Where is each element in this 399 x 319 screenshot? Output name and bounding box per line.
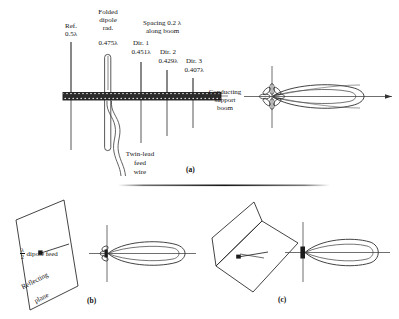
label-dir2-name: Dir. 2 [152,48,184,56]
dipole-feed-point-c [236,255,241,259]
label-dir1-name: Dir. 1 [125,39,157,47]
label-reflector-length: 0.5λ [57,30,85,38]
pattern-feed-marker-b [105,250,108,258]
label-boom-line3: boom [194,104,256,112]
label-reflector-name: Ref. [57,22,85,30]
label-boom-line1: Conducting [194,88,256,96]
label-boom-line2: support [194,96,256,104]
fraction-denominator: 2 [20,253,25,260]
label-spacing-line2: along boom [146,27,179,35]
label-feed-line3: wire [118,168,162,176]
label-folded-dipole-line3: rad. [88,24,128,32]
label-dir3-name: Dir. 3 [178,57,210,65]
dipole-feed-c [236,252,268,259]
figure-canvas [0,0,399,319]
panel-c-id: (c) [278,295,286,304]
label-dir3-length: 0.407λ [176,66,212,74]
panel-a-id: (a) [186,165,195,174]
half-wave-fraction: λ 2 [20,247,25,260]
label-dipole-feed-text: dipole feed [27,250,58,258]
label-folded-dipole-length: 0.475λ [88,39,128,47]
pattern-axis-arrowhead-a [385,94,392,99]
label-feed-line2: feed [118,159,162,167]
label-folded-dipole-line1: Folded [88,8,128,16]
panel-b-id: (b) [87,296,96,305]
antenna-figure: Ref. 0.5λ Folded dipole rad. 0.475λ Spac… [0,0,399,319]
label-folded-dipole-line2: dipole [88,16,128,24]
corner-reflector-radiation-pattern [285,222,390,282]
label-spacing-line1: Spacing 0.2 λ [143,19,181,27]
label-feed-line1: Twin-lead [118,150,162,158]
panel-c-corner-reflector [212,202,390,292]
pattern-feed-marker-c [300,247,305,259]
yagi-radiation-pattern [244,66,392,128]
label-dipole-feed-b: λ 2 dipole feed [20,247,58,260]
plane-reflector-radiation-pattern [89,225,196,282]
panel-divider-shade [118,185,330,187]
